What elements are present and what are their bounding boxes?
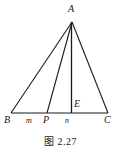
- label-point-e: E: [74, 99, 80, 109]
- figure-page: A B m P n E C 图 2.27: [0, 0, 121, 154]
- segment-ab: [11, 22, 72, 113]
- segment-ap: [47, 22, 72, 113]
- label-point-p: P: [43, 115, 49, 125]
- geometry-diagram: [0, 0, 121, 128]
- label-point-b: B: [4, 115, 10, 125]
- label-segment-m: m: [26, 117, 32, 125]
- label-segment-n: n: [65, 117, 69, 125]
- label-point-a: A: [68, 4, 74, 14]
- label-point-c: C: [104, 115, 111, 125]
- figure-caption: 图 2.27: [0, 133, 121, 148]
